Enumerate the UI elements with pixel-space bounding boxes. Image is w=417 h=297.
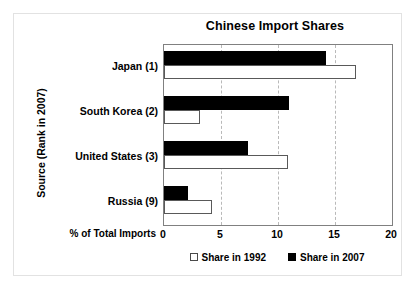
bar-group (164, 135, 392, 180)
legend-item: Share in 1992 (190, 252, 266, 263)
x-axis-tick-labels: 05101520 (163, 228, 391, 244)
chart-title: Chinese Import Shares (150, 19, 400, 33)
bar-1992 (164, 155, 288, 169)
x-axis-title: % of Total Imports (48, 228, 156, 239)
chart-legend: Share in 1992Share in 2007 (163, 249, 391, 265)
bar-1992 (164, 110, 200, 124)
legend-swatch-icon (190, 253, 198, 261)
x-tick-label-20: 20 (376, 228, 406, 240)
x-tick-label-15: 15 (319, 228, 349, 240)
category-label: United States (3) (23, 150, 158, 162)
bar-2007 (164, 51, 326, 65)
legend-label: Share in 1992 (202, 252, 266, 263)
category-label: Japan (1) (23, 60, 158, 72)
x-tick-label-5: 5 (205, 228, 235, 240)
bar-1992 (164, 200, 212, 214)
legend-swatch-icon (288, 253, 296, 261)
bar-2007 (164, 141, 248, 155)
bar-group (164, 90, 392, 135)
category-label: South Korea (2) (23, 105, 158, 117)
legend-label: Share in 2007 (300, 252, 364, 263)
bar-2007 (164, 96, 289, 110)
x-tick-label-10: 10 (262, 228, 292, 240)
plot-area (163, 44, 393, 226)
bar-group (164, 180, 392, 225)
bar-1992 (164, 65, 356, 79)
chart-figure: Chinese Import Shares Source (Rank in 20… (0, 0, 417, 297)
category-label: Russia (9) (23, 195, 158, 207)
legend-item: Share in 2007 (288, 252, 364, 263)
bar-group (164, 45, 392, 90)
x-tick-label-0: 0 (148, 228, 178, 240)
bar-2007 (164, 186, 188, 200)
category-axis-labels: Japan (1)South Korea (2)United States (3… (20, 44, 158, 224)
